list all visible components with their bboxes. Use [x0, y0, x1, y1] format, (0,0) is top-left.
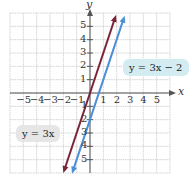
y-tick-label: 4 — [81, 140, 87, 150]
equation-label-blue: y = 3x − 2 — [123, 59, 189, 76]
arrowhead-icon — [63, 165, 69, 173]
x-tick-label: 2 — [114, 95, 120, 105]
y-tick-label: 1 — [81, 100, 87, 110]
arrowhead-icon — [120, 16, 126, 24]
x-tick-label: 4 — [140, 95, 146, 105]
y-tick-label: 2 — [81, 114, 87, 124]
y-tick-label: 4 — [80, 34, 86, 44]
x-axis-arrow-icon — [169, 90, 176, 96]
y-tick-label: 1 — [80, 74, 86, 84]
equation-text: y = 3x − 2 — [129, 62, 183, 73]
y-tick-label: 3 — [81, 127, 87, 137]
equation-label-red: y = 3x — [16, 125, 60, 142]
x-tick-label: 1 — [100, 95, 106, 105]
y-tick-label: 5 — [81, 154, 87, 164]
y-tick-label: 5 — [80, 20, 86, 30]
arrowhead-icon — [71, 166, 77, 174]
y-tick-label: 2 — [80, 60, 86, 70]
equation-text: y = 3x — [22, 128, 54, 139]
coordinate-plane — [0, 0, 191, 182]
y-axis-label: y — [86, 0, 92, 11]
y-tick-label: 3 — [80, 47, 86, 57]
arrowhead-icon — [111, 15, 117, 23]
x-axis-label: x — [178, 85, 184, 98]
x-tick-label: 3 — [127, 95, 133, 105]
x-tick-label: 5 — [154, 95, 160, 105]
